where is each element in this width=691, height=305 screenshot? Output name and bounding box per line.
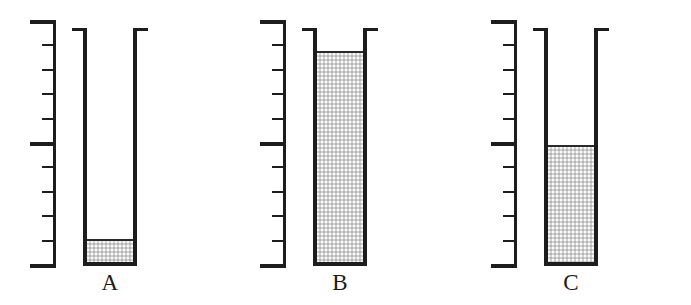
measurement-group-a: A bbox=[0, 0, 230, 305]
minor-tick-3 bbox=[503, 191, 517, 193]
minor-tick-3 bbox=[272, 191, 286, 193]
figure-canvas: ABC bbox=[0, 0, 691, 305]
minor-tick-7 bbox=[503, 93, 517, 95]
scale-b bbox=[258, 20, 286, 268]
tube-rim-lip-left bbox=[72, 28, 85, 31]
liquid-fill-c bbox=[548, 145, 594, 262]
tube-wall-left bbox=[83, 28, 87, 266]
major-tick-5 bbox=[491, 142, 517, 146]
minor-tick-8 bbox=[503, 69, 517, 71]
major-tick-0 bbox=[491, 264, 517, 268]
minor-tick-2 bbox=[272, 215, 286, 217]
minor-tick-1 bbox=[42, 240, 56, 242]
minor-tick-6 bbox=[42, 118, 56, 120]
major-tick-10 bbox=[30, 20, 56, 24]
minor-tick-2 bbox=[42, 215, 56, 217]
minor-tick-1 bbox=[503, 240, 517, 242]
scale-c bbox=[489, 20, 517, 268]
container-label-a: A bbox=[83, 268, 137, 298]
liquid-fill-b bbox=[317, 51, 363, 262]
tube-rim-lip-right bbox=[135, 28, 148, 31]
container-a bbox=[83, 20, 137, 266]
scale-a bbox=[28, 20, 56, 268]
container-label-b: B bbox=[313, 268, 367, 298]
minor-tick-7 bbox=[42, 93, 56, 95]
tube-rim-lip-right bbox=[596, 28, 609, 31]
major-tick-0 bbox=[260, 264, 286, 268]
minor-tick-4 bbox=[503, 166, 517, 168]
minor-tick-3 bbox=[42, 191, 56, 193]
tube-base bbox=[313, 262, 367, 266]
measurement-group-b: B bbox=[230, 0, 460, 305]
minor-tick-4 bbox=[272, 166, 286, 168]
minor-tick-2 bbox=[503, 215, 517, 217]
tube-wall-right bbox=[363, 28, 367, 266]
container-b bbox=[313, 20, 367, 266]
major-tick-5 bbox=[30, 142, 56, 146]
minor-tick-8 bbox=[272, 69, 286, 71]
container-label-c: C bbox=[544, 268, 598, 298]
minor-tick-8 bbox=[42, 69, 56, 71]
tube-base bbox=[83, 262, 137, 266]
minor-tick-4 bbox=[42, 166, 56, 168]
tube-rim-lip-left bbox=[533, 28, 546, 31]
liquid-fill-a bbox=[87, 239, 133, 262]
minor-tick-1 bbox=[272, 240, 286, 242]
tube-wall-right bbox=[133, 28, 137, 266]
tube-rim-lip-right bbox=[365, 28, 378, 31]
major-tick-10 bbox=[491, 20, 517, 24]
minor-tick-9 bbox=[272, 44, 286, 46]
tube-base bbox=[544, 262, 598, 266]
minor-tick-7 bbox=[272, 93, 286, 95]
tube-wall-right bbox=[594, 28, 598, 266]
major-tick-0 bbox=[30, 264, 56, 268]
container-c bbox=[544, 20, 598, 266]
minor-tick-6 bbox=[503, 118, 517, 120]
tube-rim-lip-left bbox=[302, 28, 315, 31]
major-tick-5 bbox=[260, 142, 286, 146]
minor-tick-9 bbox=[503, 44, 517, 46]
measurement-group-c: C bbox=[461, 0, 691, 305]
minor-tick-9 bbox=[42, 44, 56, 46]
minor-tick-6 bbox=[272, 118, 286, 120]
major-tick-10 bbox=[260, 20, 286, 24]
